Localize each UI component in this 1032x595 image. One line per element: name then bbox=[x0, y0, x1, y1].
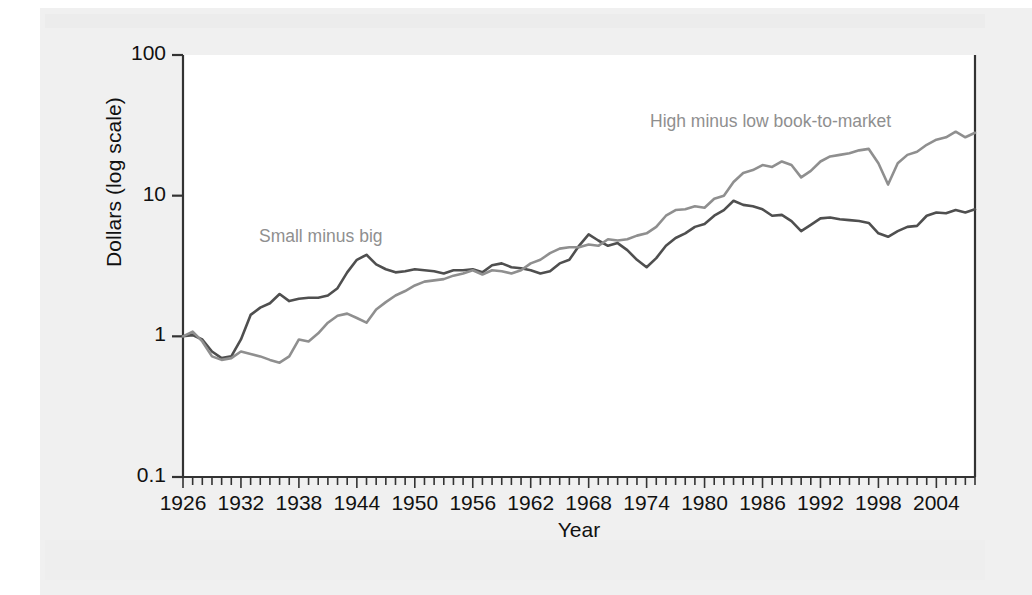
annotation-high-minus-low: High minus low book-to-market bbox=[650, 111, 891, 132]
y-tick-label: 1 bbox=[100, 322, 166, 346]
y-tick-label: 0.1 bbox=[100, 463, 166, 487]
y-tick-label: 100 bbox=[100, 41, 166, 65]
x-tick-label: 2004 bbox=[896, 491, 976, 515]
x-axis-title: Year bbox=[183, 518, 975, 542]
y-axis-ticks bbox=[172, 55, 183, 477]
figure-page: Dollars (log scale) Year 1001010.1 19261… bbox=[0, 0, 1032, 595]
y-tick-label: 10 bbox=[100, 182, 166, 206]
x-axis-ticks bbox=[183, 477, 975, 488]
annotation-small-minus-big: Small minus big bbox=[259, 226, 383, 247]
